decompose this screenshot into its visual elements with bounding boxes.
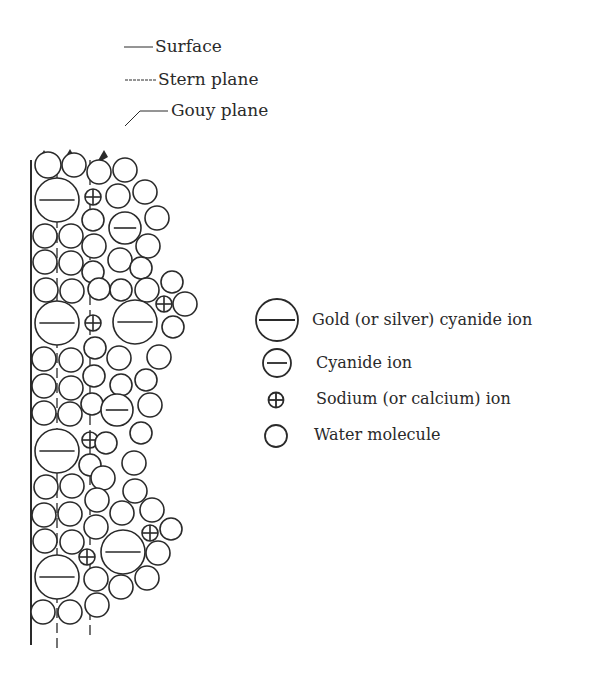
water-molecule [33,250,57,274]
water-molecule [136,234,160,258]
gold-cyanide-ion [35,555,79,599]
water-molecule [135,369,157,391]
cyanide-ion [101,394,133,426]
sodium-ion [79,549,95,565]
water-molecule [130,257,152,279]
water-molecule [85,593,109,617]
large-minus-circle-icon [256,299,298,341]
water-molecule [173,292,197,316]
water-molecule [31,600,55,624]
water-molecule [84,337,106,359]
small-minus-circle-icon [263,349,291,377]
legend-label-gold-cyanide: Gold (or silver) cyanide ion [312,310,532,329]
water-molecule [84,567,108,591]
water-molecule [138,393,162,417]
sodium-ion [85,315,101,331]
water-molecule [34,475,58,499]
water-molecule [107,346,131,370]
water-molecule [110,501,134,525]
water-molecule [140,498,164,522]
water-molecule [91,466,115,490]
water-molecule [145,206,169,230]
gouy-plane-label: Gouy plane [171,100,268,120]
water-molecule [110,374,132,396]
water-molecule [135,566,159,590]
water-molecule [60,474,84,498]
plus-circle-icon [269,393,284,408]
gold-cyanide-ion [35,178,79,222]
water-molecule [59,376,83,400]
water-molecule [58,402,82,426]
water-molecule [58,502,82,526]
water-molecule [123,479,147,503]
water-molecule [82,234,106,258]
gold-cyanide-ion [113,300,157,344]
gold-cyanide-ion [101,530,145,574]
water-molecule [146,541,170,565]
double-layer-diagram [0,0,600,674]
water-molecule [108,248,132,272]
water-molecule [84,515,108,539]
water-molecule [162,316,184,338]
circle-icon [265,425,287,447]
gouy-leader [125,111,168,126]
legend-label-cyanide: Cyanide ion [316,353,412,372]
water-molecule [109,575,133,599]
water-molecule [32,503,56,527]
water-molecule [147,345,171,369]
water-molecule [33,529,57,553]
water-molecule [161,271,183,293]
water-molecule [59,224,83,248]
cyanide-ion [109,212,141,244]
gold-cyanide-ion [35,429,79,473]
water-molecule [32,401,56,425]
water-molecule [34,278,58,302]
water-molecule [110,279,132,301]
sodium-ion [142,525,158,541]
water-molecule [106,184,130,208]
surface-label: Surface [155,36,222,56]
water-molecule [130,422,152,444]
particles [31,152,197,624]
water-molecule [160,518,182,540]
water-molecule [62,153,86,177]
water-molecule [33,224,57,248]
water-molecule [133,180,157,204]
water-molecule [58,600,82,624]
water-molecule [83,365,105,387]
water-molecule [32,347,56,371]
water-molecule [113,158,137,182]
sodium-ion [156,296,172,312]
water-molecule [81,393,103,415]
water-molecule [60,530,84,554]
water-molecule [32,374,56,398]
legend-label-water: Water molecule [314,425,440,444]
water-molecule [59,348,83,372]
water-molecule [135,278,159,302]
water-molecule [85,488,109,512]
gold-cyanide-ion [35,301,79,345]
water-molecule [35,152,61,178]
water-molecule [60,279,84,303]
legend-label-sodium: Sodium (or calcium) ion [316,389,511,408]
sodium-ion [85,189,101,205]
water-molecule [95,432,117,454]
legend-symbols [256,299,298,447]
water-molecule [82,209,104,231]
water-molecule [88,278,110,300]
water-molecule [59,251,83,275]
water-molecule [122,451,146,475]
water-molecule [87,160,111,184]
stern-plane-label: Stern plane [158,69,258,89]
